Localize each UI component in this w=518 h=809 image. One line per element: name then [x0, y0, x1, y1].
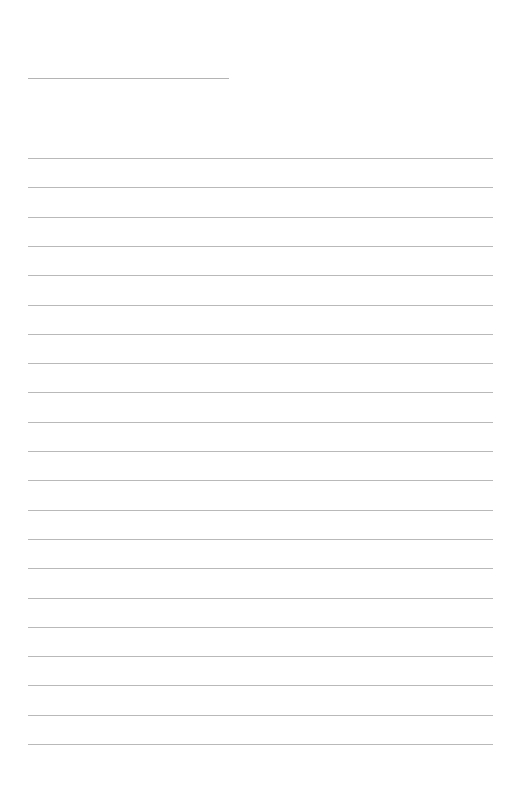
title-line	[28, 78, 229, 79]
ruled-line	[28, 217, 493, 218]
ruled-line	[28, 510, 493, 511]
ruled-line	[28, 744, 493, 745]
ruled-line	[28, 422, 493, 423]
ruled-line	[28, 480, 493, 481]
lined-paper-page	[0, 0, 518, 809]
ruled-line	[28, 392, 493, 393]
ruled-line	[28, 627, 493, 628]
ruled-line	[28, 334, 493, 335]
ruled-line	[28, 539, 493, 540]
ruled-line	[28, 158, 493, 159]
ruled-line	[28, 305, 493, 306]
ruled-line	[28, 685, 493, 686]
ruled-line	[28, 187, 493, 188]
ruled-line	[28, 451, 493, 452]
ruled-line	[28, 715, 493, 716]
ruled-line	[28, 275, 493, 276]
ruled-line	[28, 598, 493, 599]
ruled-line	[28, 363, 493, 364]
ruled-line	[28, 246, 493, 247]
ruled-line	[28, 568, 493, 569]
ruled-line	[28, 656, 493, 657]
